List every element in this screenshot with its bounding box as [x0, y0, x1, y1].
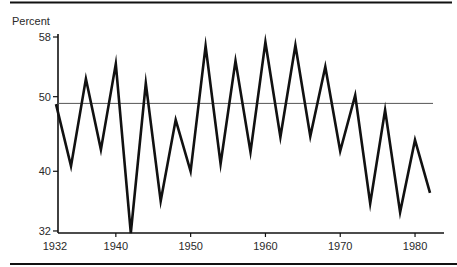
x-tick-label: 1932	[43, 240, 67, 252]
y-axis-title: Percent	[12, 15, 50, 27]
y-tick-label: 58	[39, 31, 51, 43]
y-tick-label: 40	[39, 165, 51, 177]
x-tick-label: 1980	[403, 240, 427, 252]
x-tick-label: 1970	[328, 240, 352, 252]
y-axis: 58504032	[39, 31, 58, 237]
x-tick-label: 1940	[104, 240, 128, 252]
line-chart: Percent 58504032 19321940195019601970198…	[0, 0, 457, 267]
x-tick-label: 1960	[253, 240, 277, 252]
y-tick-label: 50	[39, 91, 51, 103]
x-axis: 193219401950196019701980	[43, 233, 444, 252]
series-line	[56, 42, 430, 233]
y-tick-label: 32	[39, 225, 51, 237]
x-tick-label: 1950	[178, 240, 202, 252]
